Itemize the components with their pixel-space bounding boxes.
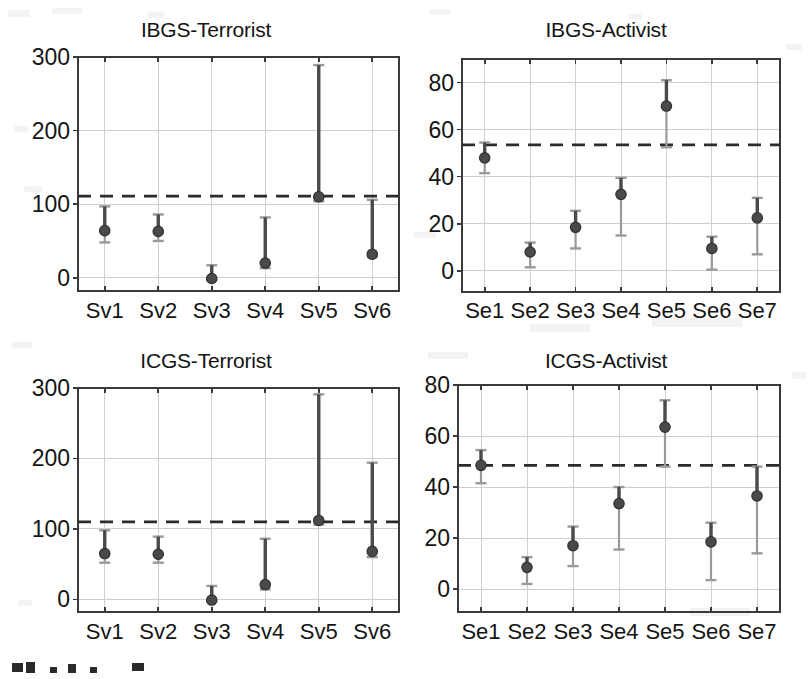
panel-title: ICGS-Terrorist (0, 349, 412, 373)
estimate-marker (706, 537, 716, 547)
plot-ibgs-terrorist: 0100200300Sv1Sv2Sv3Sv4Sv5Sv6 (0, 0, 412, 340)
x-axis-tick-label: Se6 (692, 298, 731, 323)
x-axis-tick-label: Se4 (599, 619, 638, 644)
x-axis-tick-label: Sv6 (353, 298, 391, 323)
y-axis-tick-label: 100 (32, 191, 70, 217)
y-axis-tick-label: 200 (32, 118, 70, 144)
panel-icgs-activist: ICGS-Activist 020406080Se1Se2Se3Se4Se5Se… (400, 333, 812, 673)
x-axis-tick-label: Sv4 (246, 298, 284, 323)
x-axis-tick-label: Se3 (556, 298, 595, 323)
x-axis-tick-label: Se3 (553, 619, 592, 644)
y-axis-tick-label: 0 (57, 265, 70, 291)
panel-ibgs-activist: IBGS-Activist 020406080Se1Se2Se3Se4Se5Se… (400, 0, 812, 340)
x-axis-tick-label: Se6 (691, 619, 730, 644)
x-axis-tick-label: Sv2 (139, 298, 177, 323)
x-axis-tick-label: Sv1 (86, 619, 124, 644)
estimate-marker (614, 498, 624, 508)
estimate-marker (522, 562, 532, 572)
plot-icgs-activist: 020406080Se1Se2Se3Se4Se5Se6Se7 (400, 333, 812, 673)
estimate-marker (660, 422, 670, 432)
plot-icgs-terrorist: 0100200300Sv1Sv2Sv3Sv4Sv5Sv6 (0, 333, 412, 673)
x-axis-tick-label: Se2 (507, 619, 546, 644)
panel-title: IBGS-Terrorist (0, 18, 412, 42)
x-axis-tick-label: Sv3 (193, 298, 231, 323)
panel-icgs-terrorist: ICGS-Terrorist 0100200300Sv1Sv2Sv3Sv4Sv5… (0, 333, 412, 673)
panel-title: ICGS-Activist (400, 349, 812, 373)
estimate-marker (752, 213, 762, 223)
x-axis-tick-label: Se1 (465, 298, 504, 323)
estimate-marker (207, 595, 217, 605)
x-axis-tick-label: Sv4 (246, 619, 284, 644)
y-axis-tick-label: 40 (428, 164, 454, 190)
estimate-marker (153, 226, 163, 236)
estimate-marker (570, 222, 580, 232)
estimate-marker (367, 546, 377, 556)
panel-ibgs-terrorist: IBGS-Terrorist 0100200300Sv1Sv2Sv3Sv4Sv5… (0, 0, 412, 340)
x-axis-tick-label: Sv2 (139, 619, 177, 644)
y-axis-tick-label: 80 (428, 70, 454, 96)
y-axis-tick-label: 0 (441, 258, 454, 284)
estimate-marker (314, 192, 324, 202)
figure-canvas: IBGS-Terrorist 0100200300Sv1Sv2Sv3Sv4Sv5… (0, 0, 812, 679)
estimate-marker (100, 225, 110, 235)
x-axis-tick-label: Se5 (645, 619, 684, 644)
x-axis-tick-label: Se4 (601, 298, 640, 323)
plot-box (78, 388, 399, 612)
estimate-marker (616, 189, 626, 199)
estimate-marker (568, 540, 578, 550)
x-axis-tick-label: Sv3 (193, 619, 231, 644)
estimate-marker (476, 460, 486, 470)
clipped-caption-fragment (6, 659, 336, 675)
plot-box (78, 57, 399, 291)
estimate-marker (707, 243, 717, 253)
estimate-marker (480, 153, 490, 163)
y-axis-tick-label: 200 (32, 445, 70, 471)
x-axis-tick-label: Sv6 (353, 619, 391, 644)
y-axis-tick-label: 0 (437, 576, 450, 602)
plot-ibgs-activist: 020406080Se1Se2Se3Se4Se5Se6Se7 (400, 0, 812, 340)
x-axis-tick-label: Se1 (461, 619, 500, 644)
x-axis-tick-label: Se2 (511, 298, 550, 323)
estimate-marker (367, 249, 377, 259)
y-axis-tick-label: 80 (424, 372, 450, 398)
estimate-marker (260, 579, 270, 589)
y-axis-tick-label: 300 (32, 44, 70, 70)
x-axis-tick-label: Sv1 (86, 298, 124, 323)
estimate-marker (260, 258, 270, 268)
estimate-marker (100, 548, 110, 558)
y-axis-tick-label: 100 (32, 516, 70, 542)
estimate-marker (207, 273, 217, 283)
estimate-marker (314, 515, 324, 525)
y-axis-tick-label: 20 (424, 525, 450, 551)
x-axis-tick-label: Se7 (737, 619, 776, 644)
estimate-marker (153, 549, 163, 559)
y-axis-tick-label: 60 (424, 423, 450, 449)
x-axis-tick-label: Se7 (738, 298, 777, 323)
estimate-marker (525, 247, 535, 257)
panel-title: IBGS-Activist (400, 18, 812, 42)
y-axis-tick-label: 60 (428, 117, 454, 143)
y-axis-tick-label: 300 (32, 375, 70, 401)
y-axis-tick-label: 20 (428, 211, 454, 237)
y-axis-tick-label: 40 (424, 474, 450, 500)
x-axis-tick-label: Sv5 (300, 619, 338, 644)
estimate-marker (752, 491, 762, 501)
x-axis-tick-label: Se5 (647, 298, 686, 323)
x-axis-tick-label: Sv5 (300, 298, 338, 323)
y-axis-tick-label: 0 (57, 586, 70, 612)
estimate-marker (661, 101, 671, 111)
